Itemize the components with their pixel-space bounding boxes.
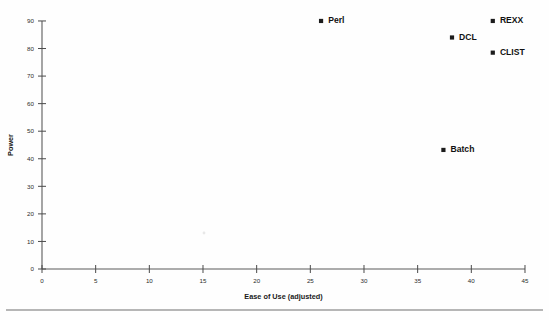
point-label-dcl: DCL xyxy=(459,32,477,42)
y-tick-label-80: 80 xyxy=(27,45,34,52)
x-tick-label-5: 5 xyxy=(94,277,98,284)
data-point-batch: Batch xyxy=(441,144,474,154)
point-label-clist: CLIST xyxy=(500,47,526,57)
scatter-plot: 0102030405060708090051015202530354045 Pe… xyxy=(0,0,549,320)
y-tick-label-50: 50 xyxy=(27,127,34,134)
marker-batch xyxy=(441,148,445,152)
point-label-rexx: REXX xyxy=(500,15,524,25)
y-tick-label-70: 70 xyxy=(27,72,34,79)
point-label-perl: Perl xyxy=(328,15,344,25)
x-tick-label-20: 20 xyxy=(253,277,260,284)
x-tick-label-45: 45 xyxy=(522,277,529,284)
marker-dcl xyxy=(450,35,454,39)
data-point-perl: Perl xyxy=(319,15,344,25)
data-point-dcl: DCL xyxy=(450,32,477,42)
y-tick-label-60: 60 xyxy=(27,100,34,107)
x-tick-label-30: 30 xyxy=(361,277,368,284)
data-point-clist: CLIST xyxy=(491,47,526,57)
x-tick-label-25: 25 xyxy=(307,277,314,284)
point-label-batch: Batch xyxy=(451,144,475,154)
y-tick-label-10: 10 xyxy=(27,238,34,245)
x-tick-label-15: 15 xyxy=(200,277,207,284)
x-tick-label-35: 35 xyxy=(414,277,421,284)
marker-perl xyxy=(319,19,323,23)
axis-titles: Ease of Use (adjusted)Power xyxy=(6,134,323,301)
x-tick-label-10: 10 xyxy=(146,277,153,284)
data-point-rexx: REXX xyxy=(491,15,524,25)
y-axis-title: Power xyxy=(6,134,15,156)
scan-speck xyxy=(203,232,206,235)
data-points: PerlDCLREXXCLISTBatch xyxy=(319,15,526,154)
x-tick-label-40: 40 xyxy=(468,277,475,284)
x-tick-label-0: 0 xyxy=(40,277,44,284)
y-tick-label-20: 20 xyxy=(27,210,34,217)
x-axis-title: Ease of Use (adjusted) xyxy=(244,292,323,301)
y-tick-label-30: 30 xyxy=(27,183,34,190)
marker-rexx xyxy=(491,19,495,23)
y-tick-label-90: 90 xyxy=(27,17,34,24)
chart-page: 0102030405060708090051015202530354045 Pe… xyxy=(0,0,549,320)
y-tick-label-0: 0 xyxy=(31,265,35,272)
y-tick-label-40: 40 xyxy=(27,155,34,162)
marker-clist xyxy=(491,51,495,55)
